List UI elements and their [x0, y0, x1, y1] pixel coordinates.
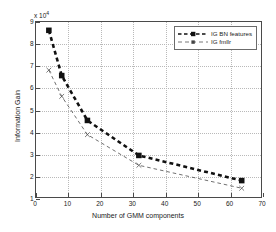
legend-item-1: IG fmllr: [178, 38, 252, 46]
x-tick-label: 70: [258, 200, 265, 207]
data-point-marker-square: [85, 118, 91, 124]
y-tick-label: 1: [30, 195, 34, 202]
data-point-marker-square: [136, 153, 142, 159]
legend: IG BN features IG fmllr: [174, 26, 257, 50]
x-tick-label: 20: [96, 200, 103, 207]
x-tick-label: 50: [194, 200, 201, 207]
y-tick-label: 6: [30, 84, 34, 91]
x-tick-label: 30: [129, 200, 136, 207]
x-axis-title: Number of GMM components: [0, 212, 276, 219]
x-tick-label: 10: [64, 200, 71, 207]
data-point-marker-x: [46, 68, 51, 73]
x-tick-label: 60: [226, 200, 233, 207]
data-point-marker-square: [46, 28, 52, 34]
legend-swatch-ig-fmllr: [178, 38, 208, 46]
y-axis-exponent-label: x 104: [34, 10, 49, 19]
y-tick-label: 9: [30, 18, 34, 25]
data-point-marker-square: [59, 73, 65, 79]
y-axis-title: Information Gain: [14, 56, 21, 176]
legend-label-ig-fmllr: IG fmllr: [211, 38, 231, 46]
legend-item-0: IG BN features: [178, 30, 252, 38]
y-tick-label: 2: [30, 172, 34, 179]
data-point-marker-x: [239, 186, 244, 191]
x-tick-mark: [263, 193, 264, 197]
y-tick-label: 5: [30, 106, 34, 113]
legend-label-ig-bn-features: IG BN features: [211, 30, 252, 38]
data-point-marker-x: [136, 163, 141, 168]
series-line-ig-bn-features: [49, 30, 242, 180]
y-axis-exponent-mantissa: x 10: [34, 12, 46, 19]
plot-area: IG BN features IG fmllr: [35, 21, 262, 198]
data-point-marker-x: [59, 94, 64, 99]
x-tick-label: 40: [161, 200, 168, 207]
y-axis-exponent-power: 4: [46, 10, 49, 16]
y-tick-label: 3: [30, 150, 34, 157]
y-tick-label: 8: [30, 40, 34, 47]
data-point-marker-x: [85, 132, 90, 137]
y-tick-label: 4: [30, 128, 34, 135]
data-point-marker-square: [239, 178, 245, 184]
series-line-ig-fmllr: [49, 70, 242, 188]
legend-swatch-ig-bn-features: [178, 30, 208, 38]
y-tick-label: 7: [30, 62, 34, 69]
figure-canvas: x 104 IG BN features IG fmllr 0102030: [0, 0, 276, 232]
